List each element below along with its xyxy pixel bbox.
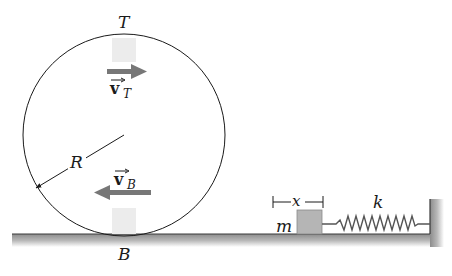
radius-label: R [69, 152, 83, 172]
velocity-bottom-label: v B [113, 169, 136, 192]
physics-diagram: R T B v T v B x m k [0, 0, 452, 276]
velocity-top-label: v T [109, 78, 132, 101]
svg-text:T: T [123, 87, 132, 101]
ground [12, 234, 432, 247]
mass-label: m [276, 216, 292, 236]
wall [430, 199, 444, 247]
top-point-label: T [118, 12, 131, 32]
bottom-point-label: B [117, 244, 131, 264]
spring [322, 216, 430, 230]
svg-text:v: v [109, 79, 120, 98]
displacement-indicator: x [273, 192, 323, 210]
mass-block [297, 210, 322, 234]
top-contact-marker [112, 38, 136, 62]
velocity-top-arrow-icon [107, 64, 147, 79]
displacement-label: x [292, 192, 301, 210]
spring-constant-label: k [373, 192, 383, 212]
svg-text:B: B [126, 178, 136, 192]
bottom-contact-marker [112, 208, 136, 234]
svg-text:v: v [113, 170, 124, 189]
